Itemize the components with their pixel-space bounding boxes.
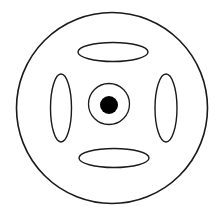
spoke-opening-right [155, 74, 177, 142]
hub-center-dot [100, 96, 118, 114]
wheel-diagram-svg [0, 0, 223, 214]
spoke-opening-top [78, 43, 148, 62]
spoke-opening-bottom [79, 149, 149, 168]
spoke-opening-left [51, 74, 72, 142]
wheel-diagram-canvas [0, 0, 223, 214]
